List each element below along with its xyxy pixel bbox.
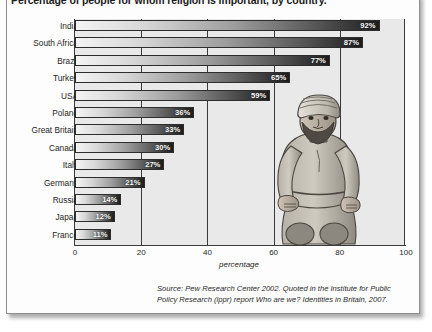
category-label-great-britain: Great Britain (31, 125, 78, 136)
bar-row: Germany21% (7, 177, 419, 194)
x-tick-0: 0 (73, 248, 77, 257)
category-label-canada: Canada (49, 143, 78, 154)
category-label-south-africa: South Africa (33, 38, 78, 49)
bar-value-label: 92% (360, 21, 378, 30)
bar-japan: 12% (75, 211, 115, 222)
bar-row: Russia14% (7, 194, 419, 211)
bar-russia: 14% (75, 194, 121, 205)
chart-title: Percentage of people for whom religion i… (11, 0, 326, 6)
bar-italy: 27% (75, 159, 164, 170)
x-tick-60: 60 (269, 248, 278, 257)
bar-row: Turkey65% (7, 72, 419, 89)
bar-value-label: 87% (344, 38, 362, 47)
bar-value-label: 59% (251, 91, 269, 100)
bar-value-label: 33% (165, 125, 183, 134)
x-tick-40: 40 (203, 248, 212, 257)
source-caption: Source: Pew Research Center 2002. Quoted… (157, 284, 407, 305)
bar-row: Poland36% (7, 107, 419, 124)
bar-value-label: 21% (125, 178, 143, 187)
bar-value-label: 27% (145, 160, 163, 169)
bar-south-africa: 87% (75, 37, 363, 48)
bar-value-label: 65% (271, 73, 289, 82)
bar-row: Canada30% (7, 142, 419, 159)
bar-france: 11% (75, 229, 111, 240)
bar-row: Brazil77% (7, 55, 419, 72)
bar-value-label: 11% (93, 230, 111, 239)
bar-row: India92% (7, 20, 419, 37)
bar-germany: 21% (75, 177, 145, 188)
bar-value-label: 36% (175, 108, 193, 117)
bar-value-label: 12% (96, 212, 114, 221)
bar-india: 92% (75, 20, 380, 31)
bar-value-label: 77% (311, 56, 329, 65)
bar-value-label: 14% (102, 195, 120, 204)
bar-row: France11% (7, 229, 419, 246)
bar-row: Japan12% (7, 211, 419, 228)
bar-row: South Africa87% (7, 37, 419, 54)
bar-row: Italy27% (7, 159, 419, 176)
bar-great-britain: 33% (75, 124, 184, 135)
bar-usa: 59% (75, 90, 270, 101)
x-tick-20: 20 (137, 248, 146, 257)
bar-poland: 36% (75, 107, 194, 118)
category-label-germany: Germany (44, 178, 78, 189)
bar-row: Great Britain33% (7, 124, 419, 141)
x-axis-label: percentage (219, 260, 259, 269)
bar-brazil: 77% (75, 55, 330, 66)
bar-row: USA59% (7, 90, 419, 107)
bar-canada: 30% (75, 142, 174, 153)
bar-value-label: 30% (155, 143, 173, 152)
chart-card: Percentage of people for whom religion i… (6, 0, 420, 314)
bar-turkey: 65% (75, 72, 290, 83)
x-tick-100: 100 (399, 248, 412, 257)
x-tick-80: 80 (335, 248, 344, 257)
